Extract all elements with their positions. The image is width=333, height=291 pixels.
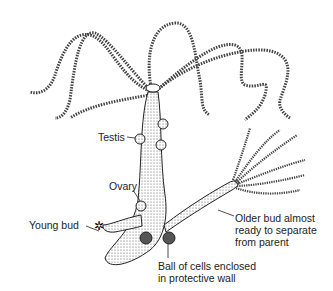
ball-of-cells-left: [140, 232, 152, 244]
label-young-bud: Young bud: [29, 219, 79, 231]
older-bud-tentacles: [233, 128, 305, 194]
testis-upper: [158, 119, 168, 129]
label-testis: Testis: [98, 131, 125, 143]
ovary: [136, 201, 146, 211]
ball-of-cells: [163, 232, 175, 244]
label-ball-line2: in protective wall: [158, 272, 236, 284]
hydra-body: [105, 92, 166, 265]
label-ball-line1: Ball of cells enclosed: [158, 260, 256, 272]
hypostome: [146, 84, 160, 92]
testis-lower: [156, 140, 166, 150]
label-older-bud-line3: from parent: [235, 236, 289, 248]
label-ovary: Ovary: [109, 180, 137, 192]
label-older-bud-line1: Older bud almost: [235, 212, 315, 224]
tentacles: [30, 23, 290, 120]
older-bud: [164, 181, 239, 232]
label-older-bud-line2: ready to separate: [235, 224, 317, 236]
testis: [135, 134, 145, 144]
